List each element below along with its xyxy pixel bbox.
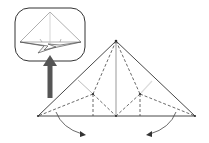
inner-point-left	[92, 93, 94, 95]
inner-point-right	[139, 93, 141, 95]
arrowhead-left-icon	[80, 131, 86, 137]
base-left-point	[37, 115, 39, 117]
inset-preview	[15, 8, 85, 61]
base-right-point	[194, 115, 196, 117]
apex-point	[115, 40, 118, 43]
origami-diagram	[0, 0, 209, 143]
arrowhead-right-icon	[146, 131, 152, 137]
arrow-shaft	[48, 64, 53, 98]
base-center-point	[115, 115, 117, 117]
